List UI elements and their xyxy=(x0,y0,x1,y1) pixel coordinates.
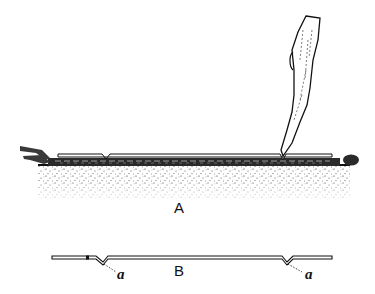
diagram-canvas xyxy=(0,0,375,294)
panel-label-b: B xyxy=(174,263,184,278)
wooden-peg xyxy=(281,16,320,156)
stem-b xyxy=(52,256,332,273)
notch-label-left: a xyxy=(117,267,125,282)
panel-label-a: A xyxy=(174,200,184,215)
notch-label-right: a xyxy=(305,267,313,282)
soil-bed xyxy=(38,165,350,200)
